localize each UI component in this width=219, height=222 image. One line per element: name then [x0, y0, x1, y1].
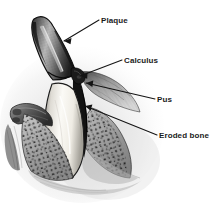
- label-pus: Pus: [157, 95, 172, 104]
- label-plaque: Plaque: [101, 16, 128, 25]
- label-eroded-bone: Eroded bone: [159, 131, 209, 140]
- leader-line-plaque: [64, 20, 99, 44]
- illustration-canvas: Plaque Calculus Pus Eroded bone: [0, 0, 219, 222]
- anatomical-illustration: Plaque Calculus Pus Eroded bone: [0, 0, 219, 222]
- label-calculus: Calculus: [124, 56, 159, 65]
